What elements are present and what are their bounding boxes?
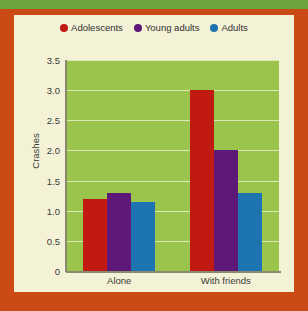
bar (214, 150, 238, 271)
bar-group (173, 60, 280, 271)
y-tick-label: 0.5 (47, 235, 60, 246)
y-axis-line (65, 60, 67, 272)
y-tick-label: 3.5 (47, 55, 60, 66)
bar (131, 202, 155, 271)
x-tick-label: Alone (107, 275, 131, 286)
plot-wrapper: Crashes 00.51.01.52.02.53.03.5 AloneWith… (14, 15, 294, 292)
y-tick-label: 1.5 (47, 175, 60, 186)
y-tick-label: 2.5 (47, 115, 60, 126)
top-green-band (0, 0, 308, 9)
figure-frame: Adolescents Young adults Adults Crashes … (0, 0, 308, 311)
bar (238, 193, 262, 271)
y-axis-tick-labels: 00.51.01.52.02.53.03.5 (34, 60, 64, 271)
y-tick-label: 0 (55, 266, 60, 277)
x-tick-label: With friends (201, 275, 251, 286)
plot-area (66, 60, 279, 271)
y-tick-label: 1.0 (47, 205, 60, 216)
chart-panel: Adolescents Young adults Adults Crashes … (14, 15, 294, 292)
bar (83, 199, 107, 271)
y-tick-label: 3.0 (47, 85, 60, 96)
x-axis-line (66, 271, 281, 273)
bar (190, 90, 214, 271)
y-tick-label: 2.0 (47, 145, 60, 156)
bar-group (66, 60, 173, 271)
bar (107, 193, 131, 271)
